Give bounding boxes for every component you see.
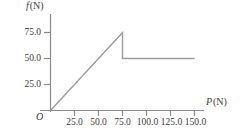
origin-label: O: [36, 112, 43, 122]
y-tick-label-75: 75.0: [8, 28, 41, 38]
x-axis-ticks: [75, 111, 195, 117]
y-axis-label-unit: (N): [30, 0, 44, 11]
y-axis-label-variable: f: [26, 0, 29, 11]
y-axis-label: f (N): [26, 1, 44, 11]
y-tick-label-25: 25.0: [8, 80, 41, 90]
friction-force-chart: f (N) P (N) O 75.0 50.0 25.0 25.0 50.0 7…: [0, 0, 240, 135]
x-axis-label-unit: (N): [213, 96, 227, 107]
y-axis-ticks: [44, 33, 51, 85]
x-tick-label-150: 150.0: [175, 118, 216, 128]
y-tick-label-50: 50.0: [8, 54, 41, 64]
x-axis-label-variable: P: [206, 96, 212, 107]
friction-curve: [51, 33, 195, 111]
x-axis-label: P (N): [206, 97, 227, 107]
